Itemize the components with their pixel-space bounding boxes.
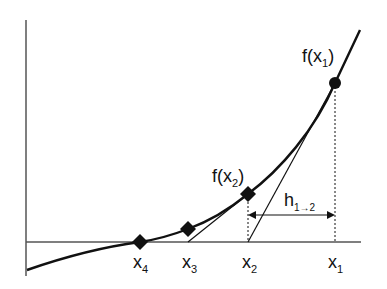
point-x3: [180, 221, 196, 237]
function-curve: [27, 30, 360, 270]
label-x4: x4: [133, 252, 148, 275]
arrowhead-left-icon: [248, 211, 256, 219]
secant-diagram: f(x1) f(x2) h1→2 x4 x3 x2 x1: [0, 0, 387, 289]
label-fx1: f(x1): [302, 46, 334, 69]
arrowhead-right-icon: [327, 211, 335, 219]
label-x2: x2: [242, 252, 257, 275]
label-x3: x3: [182, 252, 197, 275]
label-x1: x1: [328, 252, 343, 275]
label-fx2: f(x2): [212, 166, 244, 189]
label-h12: h1→2: [284, 190, 316, 213]
point-x4: [132, 234, 148, 250]
secant-line-2: [188, 194, 248, 242]
point-fx1: [329, 77, 341, 89]
secant-line-1: [248, 83, 335, 242]
